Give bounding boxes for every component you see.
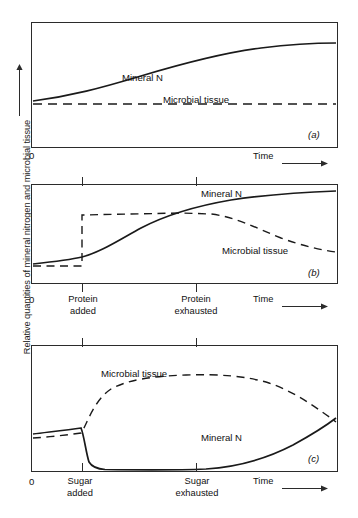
panel-b-tick-label-exhausted: Protein exhausted <box>165 294 227 317</box>
panel-a-origin-label: 0 <box>29 150 34 161</box>
tick-label-line2: exhausted <box>176 488 219 498</box>
panel-c-tick-label-exhausted: Sugar exhausted <box>166 476 228 499</box>
series-mineral-n <box>33 418 336 470</box>
panel-b-origin-label: 0 <box>29 294 34 305</box>
tick-label-line1: Sugar <box>185 476 210 486</box>
arrow-right-icon <box>282 297 328 306</box>
panel-a-time-label: Time <box>253 151 273 161</box>
panel-c-tick-bottom-exhausted <box>196 463 197 472</box>
tick-label-line2: exhausted <box>175 306 218 316</box>
panel-a-plot <box>31 22 338 148</box>
tick-label-line2: added <box>67 488 93 498</box>
panel-b-tick-label-added: Protein added <box>56 294 110 317</box>
panel-b-tag: (b) <box>308 267 320 278</box>
panel-c-origin-label: 0 <box>29 476 34 487</box>
panel-c-tick-bottom-added <box>82 463 83 472</box>
panel-a-tag: (a) <box>308 129 320 140</box>
panel-c: Microbial tissue Mineral N (c) <box>31 345 338 472</box>
panel-b-time-label: Time <box>253 294 273 304</box>
panel-c-plot <box>31 345 338 472</box>
panel-b-tick-bottom-added <box>82 283 83 292</box>
figure-root: Relative quantities of mineral nitrogen … <box>0 0 358 518</box>
panel-b-tick-protein-exhausted <box>196 177 197 186</box>
arrow-right-icon <box>282 154 328 163</box>
panel-a-microbial-label: Microbial tissue <box>163 94 229 105</box>
panel-b-tick-bottom-exhausted <box>196 283 197 292</box>
tick-label-line2: added <box>70 306 96 316</box>
panel-c-tick-label-added: Sugar added <box>56 476 104 499</box>
panel-b-mineral-label: Mineral N <box>201 188 242 199</box>
panel-c-tag: (c) <box>308 453 319 464</box>
panel-c-time-label: Time <box>253 476 273 486</box>
panel-a-mineral-label: Mineral N <box>122 72 163 83</box>
tick-label-line1: Sugar <box>68 476 93 486</box>
panel-c-mineral-label: Mineral N <box>201 432 242 443</box>
series-mineral-n <box>33 43 336 101</box>
panel-c-tick-sugar-exhausted <box>196 338 197 347</box>
tick-label-line1: Protein <box>181 294 210 304</box>
panel-b-microbial-label: Microbial tissue <box>222 245 288 256</box>
arrow-right-icon <box>282 479 328 488</box>
panel-b-tick-protein-added <box>82 177 83 186</box>
arrow-up-icon <box>15 64 24 116</box>
panel-b: Mineral N Microbial tissue (b) <box>31 184 338 284</box>
panel-a: Mineral N Microbial tissue (a) <box>31 22 338 148</box>
panel-c-microbial-label: Microbial tissue <box>101 368 167 379</box>
tick-label-line1: Protein <box>68 294 97 304</box>
panel-b-plot <box>31 184 338 284</box>
panel-c-tick-sugar-added <box>82 338 83 347</box>
series-mineral-n <box>33 191 336 264</box>
